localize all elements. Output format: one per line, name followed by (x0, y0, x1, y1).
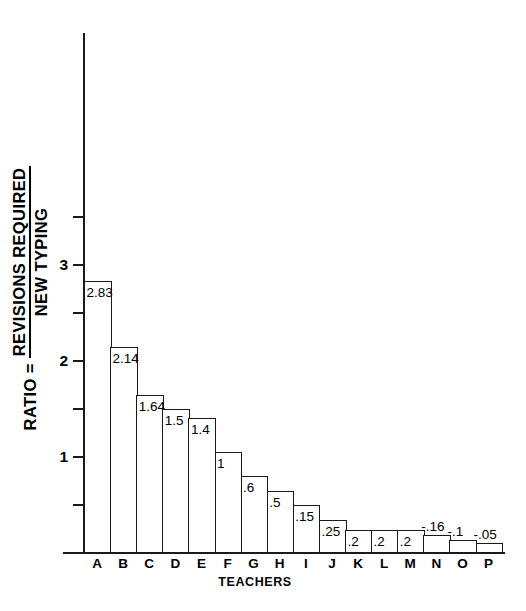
bar-value-label: .2 (374, 535, 385, 549)
bar-value-label: .25 (321, 525, 340, 539)
x-axis-category-label-p: P (476, 557, 502, 571)
bar-value-label: .2 (400, 535, 411, 549)
bar-value-label: -.1 (447, 525, 463, 539)
bar-b (110, 347, 138, 553)
bar-value-label: -.16 (421, 520, 444, 534)
plot-area: 1232.83A2.14B1.64C1.5D1.4E1F.6G.5H.15I.2… (0, 0, 526, 611)
y-axis-minor-tick (73, 504, 84, 506)
y-axis-tick-label: 2 (50, 353, 68, 369)
x-axis-category-label-l: L (371, 557, 397, 571)
x-axis-category-label-h: H (267, 557, 293, 571)
y-axis-tick (73, 456, 84, 458)
x-axis-category-label-o: O (449, 557, 475, 571)
bar-chart-figure: RATIO = REVISIONS REQUIRED NEW TYPING 12… (0, 0, 526, 611)
bar-p (476, 543, 504, 553)
bar-value-label: 2.14 (113, 352, 139, 366)
bar-d (162, 409, 190, 553)
bar-value-label: 1.4 (191, 423, 210, 437)
bar-a (84, 281, 112, 553)
bar-value-label: 1.5 (165, 414, 184, 428)
bar-c (136, 395, 164, 553)
bar-e (188, 418, 216, 553)
y-axis-minor-tick (73, 312, 84, 314)
x-axis-category-label-i: I (293, 557, 319, 571)
x-axis-category-label-c: C (136, 557, 162, 571)
x-axis-category-label-m: M (397, 557, 423, 571)
x-axis-category-label-n: N (423, 557, 449, 571)
y-axis-tick-label: 1 (50, 449, 68, 465)
bar-value-label: 2.83 (87, 286, 113, 300)
y-axis-minor-tick (73, 216, 84, 218)
y-axis-minor-tick (73, 408, 84, 410)
x-axis-category-label-k: K (345, 557, 371, 571)
x-axis-category-label-b: B (110, 557, 136, 571)
bar-value-label: -.05 (474, 528, 497, 542)
y-axis-tick (73, 360, 84, 362)
x-axis-category-label-j: J (319, 557, 345, 571)
bar-value-label: 1 (217, 457, 225, 471)
y-axis-tick-label: 3 (50, 257, 68, 273)
x-axis-category-label-e: E (188, 557, 214, 571)
bar-value-label: .5 (269, 496, 280, 510)
bar-value-label: 1.64 (139, 400, 165, 414)
bar-value-label: .15 (295, 510, 314, 524)
y-axis-tick (73, 264, 84, 266)
x-axis-category-label-a: A (84, 557, 110, 571)
bar-o (449, 540, 477, 553)
bar-value-label: .2 (348, 535, 359, 549)
x-axis-category-label-d: D (162, 557, 188, 571)
x-axis-category-label-f: F (215, 557, 241, 571)
bar-value-label: .6 (243, 481, 254, 495)
x-axis-label-text: TEACHERS (218, 575, 292, 589)
x-axis-label: TEACHERS (0, 575, 526, 589)
x-axis-category-label-g: G (241, 557, 267, 571)
